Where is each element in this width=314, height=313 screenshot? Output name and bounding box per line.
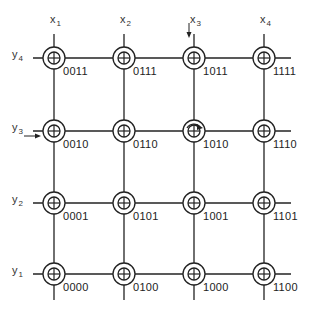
core-address-label: 0111	[133, 66, 157, 77]
column-label-letter: x	[190, 13, 196, 25]
grid-lines	[0, 0, 314, 313]
core-address-label: 1100	[273, 282, 298, 293]
core-address-label: 1110	[273, 139, 297, 150]
row-label-subscript: 4	[19, 54, 23, 63]
column-label-letter: x	[120, 13, 126, 25]
column-label-letter: x	[260, 13, 266, 25]
row-label-y4: y4	[12, 49, 23, 60]
column-label-subscript: 3	[197, 19, 201, 28]
core-address-label: 1010	[203, 139, 229, 150]
row-label-letter: y	[12, 264, 18, 276]
core-address-label: 1101	[273, 211, 298, 222]
row-label-subscript: 1	[19, 270, 23, 279]
x3-arrow-head-icon	[187, 32, 192, 38]
core-address-label: 1011	[203, 66, 228, 77]
core-address-label: 1000	[203, 282, 229, 293]
column-label-subscript: 1	[57, 19, 61, 28]
core-address-label: 0011	[63, 66, 88, 77]
column-label-x2: x2	[120, 14, 131, 25]
column-label-x3: x3	[190, 14, 201, 25]
memory-grid-diagram: 0011011110111111001001101010111000010101…	[0, 0, 314, 313]
row-label-y2: y2	[12, 194, 23, 205]
row-label-subscript: 3	[19, 127, 23, 136]
core-address-label: 1001	[203, 211, 229, 222]
row-label-letter: y	[12, 48, 18, 60]
row-label-y3: y3	[12, 122, 23, 133]
row-label-subscript: 2	[19, 199, 23, 208]
column-label-letter: x	[50, 13, 56, 25]
row-label-letter: y	[12, 193, 18, 205]
column-label-x1: x1	[50, 14, 61, 25]
core-address-label: 1111	[273, 66, 296, 77]
core-address-label: 0001	[63, 211, 89, 222]
core-address-label: 0000	[63, 282, 89, 293]
y3-arrow-head-icon	[35, 134, 41, 139]
core-address-label: 0100	[133, 282, 159, 293]
column-label-subscript: 2	[127, 19, 131, 28]
core-address-label: 0110	[133, 139, 158, 150]
column-label-subscript: 4	[267, 19, 271, 28]
core-address-label: 0101	[133, 211, 159, 222]
row-label-letter: y	[12, 121, 18, 133]
core-address-label: 0010	[63, 139, 89, 150]
row-label-y1: y1	[12, 265, 23, 276]
column-label-x4: x4	[260, 14, 271, 25]
